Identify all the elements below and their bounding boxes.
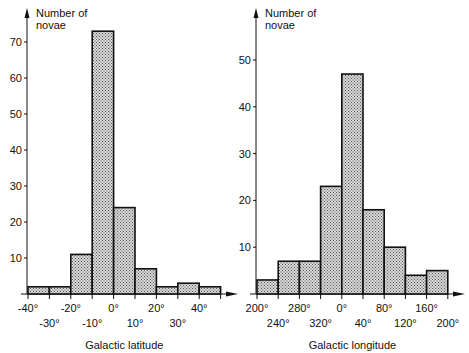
histogram-bar [384,247,405,294]
novae-histograms: Number ofnovae10203040506070-40°-30°-20°… [0,0,469,353]
x-tick-label: 30° [169,317,186,329]
x-tick-label: 320° [309,317,332,329]
histogram-bar [299,261,320,294]
x-axis-arrow-icon [453,292,465,297]
histogram-bar [156,287,177,294]
x-tick-label: 20° [148,302,165,314]
y-tick-label: 30 [10,180,22,192]
x-tick-label: 0° [337,302,348,314]
y-tick-label: 20 [239,194,251,206]
x-tick-label: 80° [376,302,393,314]
histogram-bar [114,208,135,294]
histogram-bar [49,287,70,294]
x-tick-label: 0° [108,302,119,314]
x-axis-label: Galactic latitude [85,339,163,351]
x-tick-label: -30° [39,317,59,329]
histogram-bar [342,74,363,294]
histogram-bar [135,269,156,294]
y-tick-label: 60 [10,72,22,84]
histogram-bar [199,287,220,294]
y-axis-label: Number of [265,7,317,19]
histogram-bar [92,31,113,294]
x-tick-label: 280° [288,302,311,314]
histogram-bar [257,280,278,294]
x-axis-arrow-icon [226,292,238,297]
x-axis-label: Galactic longitude [309,339,396,351]
y-axis-arrow-icon [254,8,259,18]
x-tick-label: 240° [267,317,290,329]
histogram-bar [363,210,384,294]
latitude-histogram: Number ofnovae10203040506070-40°-30°-20°… [10,7,238,351]
x-tick-label: 10° [127,317,144,329]
histogram-bar [321,186,342,294]
y-axis-label: novae [36,19,66,31]
histogram-bar [178,283,199,294]
longitude-histogram: Number ofnovae1020304050200°240°280°320°… [239,7,465,351]
x-tick-label: -20° [61,302,81,314]
x-tick-label: 160° [415,302,438,314]
histogram-bar [278,261,299,294]
x-tick-label: -10° [82,317,102,329]
x-tick-label: 200° [436,317,459,329]
y-tick-label: 10 [10,252,22,264]
y-axis-label: Number of [36,7,88,19]
histogram-bar [28,287,49,294]
y-tick-label: 50 [239,54,251,66]
y-tick-label: 40 [10,144,22,156]
x-tick-label: 120° [394,317,417,329]
y-axis-arrow-icon [25,8,30,18]
y-axis-label: novae [265,19,295,31]
x-tick-label: 200° [246,302,269,314]
y-tick-label: 50 [10,108,22,120]
histogram-bar [71,254,92,294]
y-tick-label: 70 [10,36,22,48]
histogram-bar [405,275,426,294]
y-tick-label: 40 [239,101,251,113]
x-tick-label: 40° [191,302,208,314]
y-tick-label: 10 [239,241,251,253]
x-tick-label: 40° [355,317,372,329]
histogram-bar [427,271,448,294]
y-tick-label: 30 [239,148,251,160]
y-tick-label: 20 [10,216,22,228]
x-tick-label: -40° [18,302,38,314]
